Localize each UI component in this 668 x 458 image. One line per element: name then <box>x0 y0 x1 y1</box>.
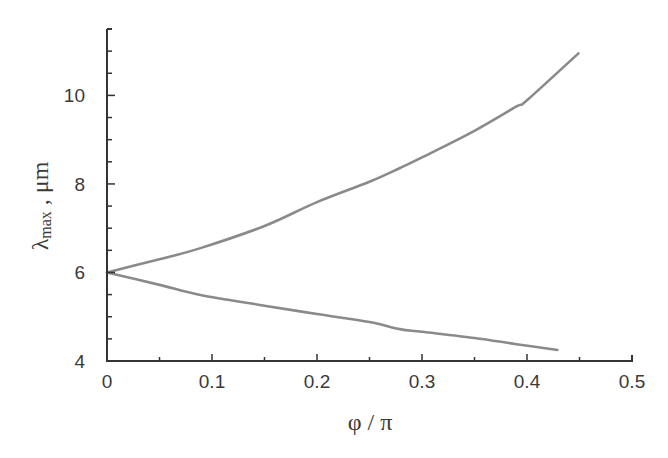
svg-text:λmax , μm: λmax , μm <box>27 161 54 250</box>
axes <box>107 29 632 361</box>
y-axis-subscript: max <box>37 211 54 239</box>
x-tick-label: 0.2 <box>304 371 330 392</box>
y-axis-symbol: λ <box>27 238 53 250</box>
ticks <box>107 51 580 361</box>
plot-lines <box>107 53 578 350</box>
y-axis-unit: , μm <box>27 161 53 211</box>
chart: 00.10.20.30.40.546810 φ / π λmax , μm <box>0 0 668 458</box>
y-axis-title: λmax , μm <box>27 161 54 250</box>
x-tick-label: 0.5 <box>619 371 645 392</box>
y-tick-label: 8 <box>74 174 85 195</box>
y-tick-label: 10 <box>64 85 85 106</box>
series-upper-branch <box>107 53 578 272</box>
y-tick-label: 6 <box>74 262 85 283</box>
tick-labels: 00.10.20.30.40.546810 <box>64 85 645 392</box>
x-axis-title: φ / π <box>348 409 393 435</box>
y-tick-label: 4 <box>74 351 85 372</box>
axis-lines <box>107 29 632 361</box>
series-lower-branch <box>107 272 557 349</box>
x-tick-label: 0.1 <box>199 371 225 392</box>
x-tick-label: 0 <box>102 371 113 392</box>
x-tick-label: 0.4 <box>514 371 541 392</box>
x-tick-label: 0.3 <box>409 371 435 392</box>
